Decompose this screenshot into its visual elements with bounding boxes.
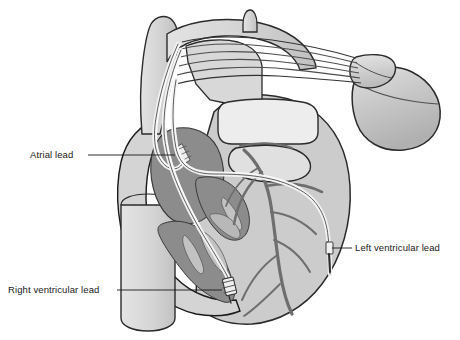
ascending-aorta [186, 40, 262, 104]
arch-branch-vessel [243, 10, 257, 32]
label-left-ventricular-lead: Left ventricular lead [355, 242, 440, 253]
label-atrial-lead: Atrial lead [30, 149, 73, 160]
pulmonary-artery [218, 99, 318, 144]
cardiac-crt-diagram: Atrial lead Right ventricular lead Left … [0, 0, 460, 340]
label-right-ventricular-lead: Right ventricular lead [8, 284, 99, 295]
pulse-generator[interactable] [350, 55, 440, 151]
figure-canvas: Atrial lead Right ventricular lead Left … [0, 0, 460, 340]
